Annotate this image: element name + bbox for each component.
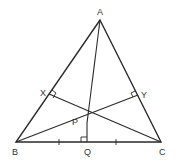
triangle-abc — [16, 20, 161, 142]
label-y: Y — [141, 90, 147, 100]
geometry-diagram: A B C X Y P Q — [0, 0, 176, 163]
right-angle-q — [81, 137, 87, 142]
label-c: C — [159, 147, 166, 157]
label-p: P — [72, 117, 78, 127]
label-b: B — [12, 147, 18, 157]
label-a: A — [97, 7, 103, 17]
label-q: Q — [84, 147, 91, 157]
segment-xc — [49, 94, 161, 142]
label-x: X — [40, 88, 46, 98]
